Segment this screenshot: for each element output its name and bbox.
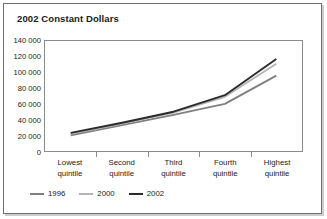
- legend-item-2002: 2002: [129, 190, 164, 198]
- x-axis-category-label: Thirdquintile: [148, 158, 200, 184]
- x-axis-category-label: Lowestquintile: [44, 158, 96, 184]
- y-axis-tick-label: 120 000: [0, 52, 41, 61]
- legend-label-2000: 2000: [97, 190, 114, 198]
- legend-swatch-1996: [30, 193, 44, 196]
- legend-swatch-2002: [129, 193, 143, 196]
- x-axis-tick: [199, 152, 200, 157]
- legend-label-2002: 2002: [147, 190, 164, 198]
- y-axis-tick-label: 80 000: [0, 84, 41, 93]
- plot-lines: [45, 41, 302, 151]
- x-axis-category-label: Secondquintile: [96, 158, 148, 184]
- y-axis-tick-label: 100 000: [0, 68, 41, 77]
- x-axis-tick: [96, 152, 97, 157]
- x-axis-category-label: Fourthquintile: [199, 158, 251, 184]
- legend-item-2000: 2000: [79, 190, 114, 198]
- legend-item-1996: 1996: [30, 190, 65, 198]
- chart-legend: 199620002002: [30, 190, 164, 198]
- x-axis-ticks: [44, 152, 303, 157]
- legend-swatch-2000: [79, 193, 93, 196]
- x-axis-tick-labels: LowestquintileSecondquintileThirdquintil…: [44, 158, 303, 184]
- figure-border-shadow-right: [322, 5, 324, 216]
- chart-title: 2002 Constant Dollars: [17, 13, 119, 24]
- y-axis-tick-label: 60 000: [0, 100, 41, 109]
- legend-label-1996: 1996: [48, 190, 65, 198]
- series-line-2000: [71, 64, 277, 134]
- x-axis-tick: [251, 152, 252, 157]
- x-axis-tick: [148, 152, 149, 157]
- y-axis-tick-label: 140 000: [0, 36, 41, 45]
- x-axis-category-label: Highestquintile: [251, 158, 303, 184]
- y-axis-tick-labels: 140 000120 000100 00080 00060 00040 0002…: [0, 33, 41, 159]
- figure-border-shadow-bottom: [5, 214, 324, 216]
- y-axis-tick-label: 40 000: [0, 116, 41, 125]
- y-axis-tick-label: 20 000: [0, 132, 41, 141]
- y-axis-tick-label: 0: [0, 148, 41, 157]
- chart-figure: 2002 Constant Dollars 140 000120 000100 …: [0, 0, 327, 219]
- series-line-2002: [71, 59, 277, 133]
- plot-area: [44, 40, 303, 152]
